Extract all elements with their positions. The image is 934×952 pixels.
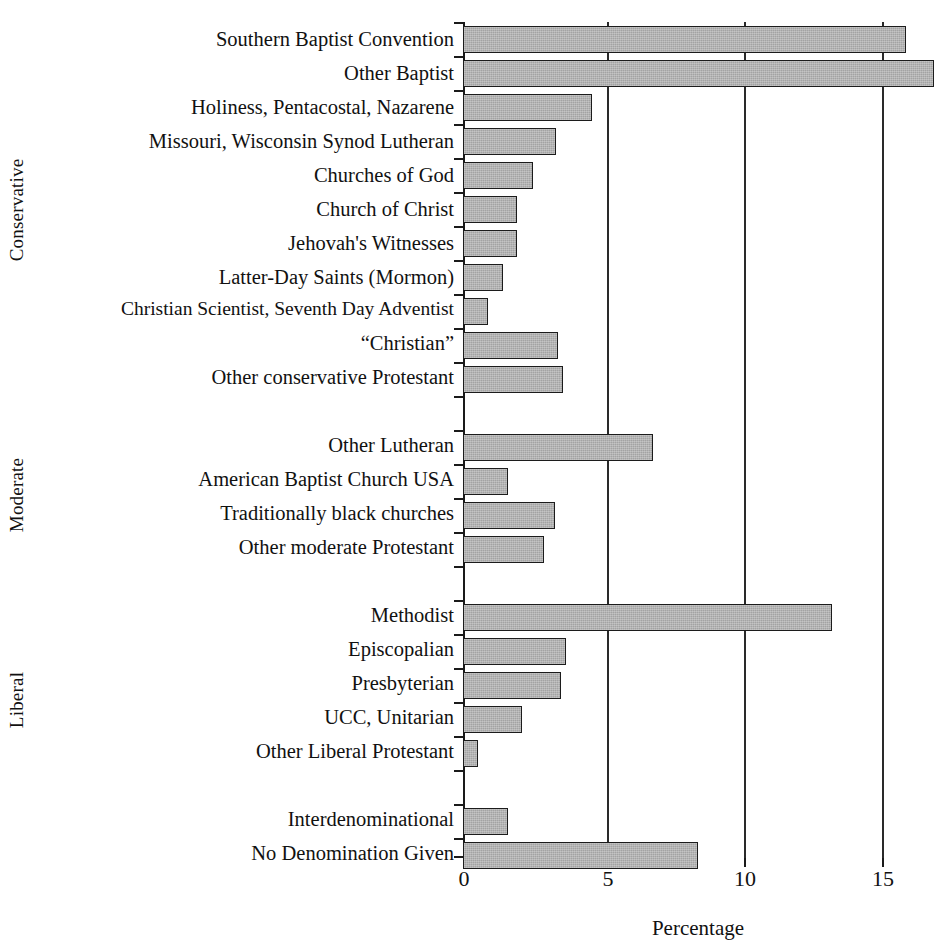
category-label: Missouri, Wisconsin Synod Lutheran [0, 131, 463, 151]
category-label: No Denomination Given [0, 843, 463, 863]
category-label: Traditionally black churches [0, 503, 463, 523]
category-label: Jehovah's Witnesses [0, 233, 463, 253]
y-tick [454, 600, 463, 602]
bar-church-of-christ [463, 196, 517, 223]
bar-episcopalian [463, 638, 566, 665]
category-label: Latter-Day Saints (Mormon) [0, 267, 463, 287]
bar-other-lutheran [463, 434, 653, 461]
y-tick [454, 498, 463, 500]
bar-christian-scientist-seventh-day-adventist [463, 298, 488, 325]
y-tick [454, 260, 463, 262]
category-label: Holiness, Pentacostal, Nazarene [0, 97, 463, 117]
category-label: Other Lutheran [0, 435, 463, 455]
bar-no-denomination-given [463, 842, 698, 869]
y-tick [454, 362, 463, 364]
category-label: Methodist [0, 605, 463, 625]
y-tick [454, 192, 463, 194]
x-tick-label-15: 15 [872, 866, 894, 892]
y-tick [454, 294, 463, 296]
bar-missouri-wisconsin-synod-lutheran [463, 128, 556, 155]
x-tick-label-0: 0 [459, 866, 470, 892]
y-tick [454, 634, 463, 636]
category-label: Church of Christ [0, 199, 463, 219]
category-label: Other conservative Protestant [0, 367, 463, 387]
bar-ucc-unitarian [463, 706, 522, 733]
bar-jehovahs-witnesses [463, 230, 517, 257]
category-label: UCC, Unitarian [0, 707, 463, 727]
bar-other-liberal-protestant [463, 740, 478, 767]
bar-methodist [463, 604, 832, 631]
y-tick [454, 328, 463, 330]
bar-other-conservative-protestant [463, 366, 563, 393]
y-tick [454, 856, 463, 858]
y-tick [454, 838, 463, 840]
category-label: American Baptist Church USA [0, 469, 463, 489]
category-label-column: Southern Baptist Convention Other Baptis… [0, 0, 463, 952]
bar-other-moderate-protestant [463, 536, 544, 563]
y-tick [454, 56, 463, 58]
category-label: Christian Scientist, Seventh Day Adventi… [0, 299, 463, 319]
category-label: Episcopalian [0, 639, 463, 659]
x-tick-label-5: 5 [603, 866, 614, 892]
y-tick [454, 566, 463, 568]
y-tick [454, 464, 463, 466]
bar-american-baptist-church-usa [463, 468, 508, 495]
y-tick [454, 22, 463, 24]
category-label: Interdenominational [0, 809, 463, 829]
bar-latter-day-saints-mormon [463, 264, 503, 291]
y-tick [454, 668, 463, 670]
plot-area [463, 22, 933, 858]
category-label: Other Baptist [0, 63, 463, 83]
category-label: Southern Baptist Convention [0, 29, 463, 49]
y-tick [454, 226, 463, 228]
gridline-10 [744, 22, 746, 858]
x-axis-title: Percentage [463, 916, 933, 941]
category-label: “Christian” [0, 333, 463, 353]
bar-interdenominational [463, 808, 508, 835]
y-tick [454, 702, 463, 704]
bar-christian [463, 332, 558, 359]
bar-southern-baptist-convention [463, 26, 906, 53]
y-tick [454, 804, 463, 806]
y-tick [454, 158, 463, 160]
bar-churches-of-god [463, 162, 533, 189]
y-tick [454, 90, 463, 92]
y-tick [454, 430, 463, 432]
y-tick [454, 736, 463, 738]
category-label: Other moderate Protestant [0, 537, 463, 557]
y-tick [454, 124, 463, 126]
y-tick [454, 532, 463, 534]
y-tick [454, 396, 463, 398]
category-label: Churches of God [0, 165, 463, 185]
bar-holiness-pentacostal-nazarene [463, 94, 592, 121]
x-tick-label-10: 10 [734, 866, 756, 892]
gridline-15 [882, 22, 884, 858]
category-label: Presbyterian [0, 673, 463, 693]
category-label: Other Liberal Protestant [0, 741, 463, 761]
bar-presbyterian [463, 672, 561, 699]
y-tick [454, 770, 463, 772]
bar-traditionally-black-churches [463, 502, 555, 529]
bar-other-baptist [463, 60, 934, 87]
